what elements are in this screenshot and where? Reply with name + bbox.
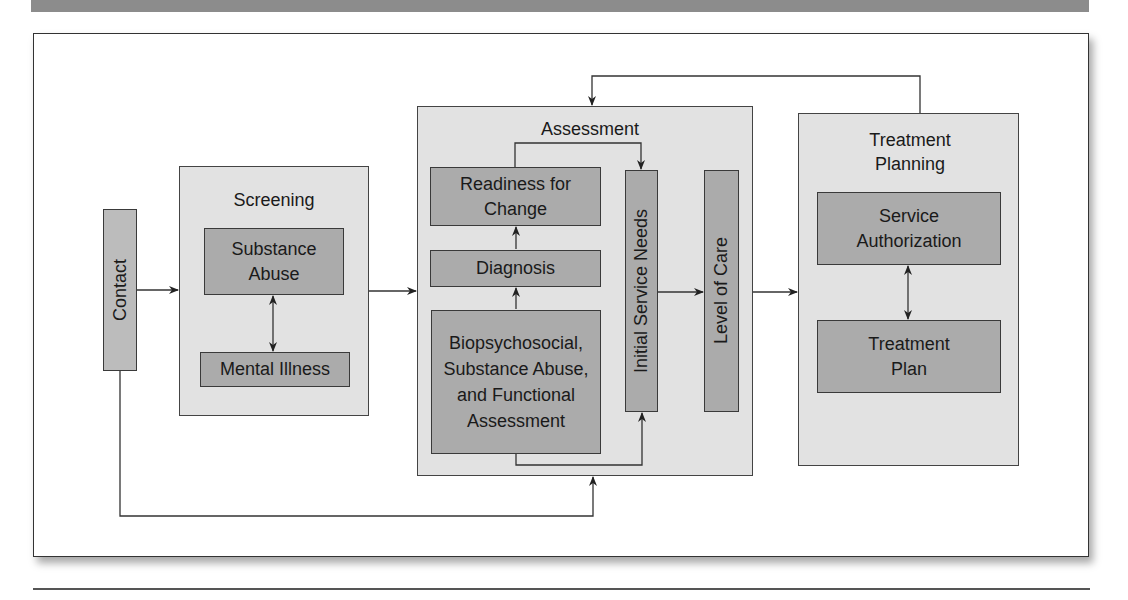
arrow-readiness-isn [515,143,641,169]
arrow-treatment-assessment [592,76,920,113]
arrow-contact-assessment [120,371,593,516]
arrow-bio-isn [516,413,642,465]
connectors [0,0,1128,600]
